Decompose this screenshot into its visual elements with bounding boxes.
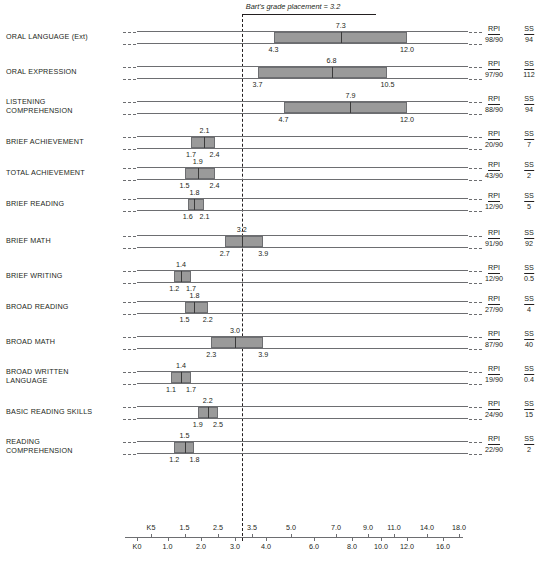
rpi-value-8: 27/90 xyxy=(485,306,503,314)
grade-placement-caption: Bart's grade placement = 3.2 xyxy=(246,2,340,11)
value-high-4: 2.4 xyxy=(210,181,220,190)
row-label-12: READING COMPREHENSION xyxy=(6,437,73,455)
ss-header-3: SS xyxy=(524,130,534,140)
band-dash-left xyxy=(123,271,136,272)
median-marker-5 xyxy=(194,199,195,210)
value-low-11: 1.9 xyxy=(193,420,203,429)
band-dash-right xyxy=(469,199,482,200)
value-high-10: 1.7 xyxy=(186,385,196,394)
ss-header-5: SS xyxy=(524,192,534,202)
rpi-value-11: 24/90 xyxy=(485,411,503,419)
axis-label-lower-4: 4.0 xyxy=(261,542,271,551)
band-dash-left xyxy=(123,248,136,249)
profile-band-5 xyxy=(137,198,468,211)
axis-label-lower-2: 2.0 xyxy=(196,542,206,551)
band-dash-left xyxy=(123,454,136,455)
band-dash-left xyxy=(123,44,136,45)
band-dash-left xyxy=(123,168,136,169)
axis-label-lower-3: 3.0 xyxy=(230,542,240,551)
band-rule-bottom xyxy=(137,282,468,283)
value-mid-12: 1.5 xyxy=(180,431,190,440)
band-rule-top xyxy=(137,336,468,337)
median-marker-1 xyxy=(332,67,333,78)
axis-label-upper-5: 7.0 xyxy=(331,523,341,532)
axis-label-upper-0: K5 xyxy=(147,523,156,532)
ss-value-11: 15 xyxy=(525,411,533,419)
band-dash-left xyxy=(123,407,136,408)
row-label-5: BRIEF READING xyxy=(6,199,64,208)
axis-tick-lower-4 xyxy=(266,537,267,541)
profile-band-8 xyxy=(137,301,468,314)
axis-tick-upper-8 xyxy=(427,534,428,538)
value-high-1: 10.5 xyxy=(381,80,395,89)
axis-label-upper-9: 18.0 xyxy=(452,523,466,532)
band-dash-left xyxy=(123,149,136,150)
axis-label-lower-1: 1.0 xyxy=(163,542,173,551)
band-rule-bottom xyxy=(137,383,468,384)
rpi-header-0: RPI xyxy=(488,25,500,35)
confidence-band-3 xyxy=(191,137,215,149)
value-high-12: 1.8 xyxy=(189,455,199,464)
rpi-value-1: 97/90 xyxy=(485,71,503,79)
band-rule-bottom xyxy=(137,210,468,211)
band-dash-left xyxy=(123,211,136,212)
rpi-header-3: RPI xyxy=(488,130,500,140)
band-dash-left xyxy=(123,114,136,115)
value-low-6: 2.7 xyxy=(220,249,230,258)
value-high-11: 2.5 xyxy=(213,420,223,429)
rpi-header-8: RPI xyxy=(488,295,500,305)
ss-value-6: 92 xyxy=(525,240,533,248)
band-dash-left xyxy=(123,32,136,33)
row-label-9: BROAD MATH xyxy=(6,337,55,346)
ss-header-1: SS xyxy=(524,60,534,70)
value-low-12: 1.2 xyxy=(169,455,179,464)
band-dash-left xyxy=(123,419,136,420)
value-mid-9: 3.0 xyxy=(230,326,240,335)
ss-value-10: 0.4 xyxy=(524,376,534,384)
band-dash-left xyxy=(123,102,136,103)
rpi-value-9: 87/90 xyxy=(485,341,503,349)
axis-label-lower-5: 6.0 xyxy=(309,542,319,551)
band-dash-left xyxy=(123,349,136,350)
value-high-8: 2.2 xyxy=(203,315,213,324)
band-dash-right xyxy=(469,372,482,373)
band-dash-right xyxy=(469,314,482,315)
band-dash-right xyxy=(469,102,482,103)
ss-value-3: 7 xyxy=(527,141,531,149)
axis-tick-upper-0 xyxy=(151,534,152,538)
band-rule-top xyxy=(137,406,468,407)
median-marker-8 xyxy=(194,302,195,313)
row-label-3: BRIEF ACHIEVEMENT xyxy=(6,137,84,146)
band-dash-right xyxy=(469,283,482,284)
row-label-8: BROAD READING xyxy=(6,302,69,311)
ss-header-2: SS xyxy=(524,95,534,105)
ss-value-2: 94 xyxy=(525,106,533,114)
median-marker-6 xyxy=(242,236,243,247)
value-mid-4: 1.9 xyxy=(193,157,203,166)
ss-header-12: SS xyxy=(524,435,534,445)
value-high-9: 3.9 xyxy=(258,350,268,359)
age-grade-profile-chart: Bart's grade placement = 3.2ORAL LANGUAG… xyxy=(0,0,549,562)
profile-band-4 xyxy=(137,167,468,180)
profile-band-2 xyxy=(137,101,468,114)
ss-header-4: SS xyxy=(524,161,534,171)
axis-label-upper-7: 11.0 xyxy=(387,523,400,532)
value-high-2: 12.0 xyxy=(400,115,414,124)
confidence-band-2 xyxy=(284,102,408,114)
band-dash-left xyxy=(123,236,136,237)
axis-tick-lower-7 xyxy=(381,537,382,541)
ss-value-0: 94 xyxy=(525,36,533,44)
rpi-header-5: RPI xyxy=(488,192,500,202)
axis-tick-lower-8 xyxy=(407,537,408,541)
value-low-2: 4.7 xyxy=(279,115,289,124)
profile-band-3 xyxy=(137,136,468,149)
axis-label-upper-3: 3.5 xyxy=(247,523,257,532)
value-low-5: 1.6 xyxy=(183,212,193,221)
ss-value-7: 0.5 xyxy=(524,275,534,283)
value-low-0: 4.3 xyxy=(269,45,279,54)
rpi-header-2: RPI xyxy=(488,95,500,105)
rpi-header-9: RPI xyxy=(488,330,500,340)
band-dash-right xyxy=(469,248,482,249)
band-dash-left xyxy=(123,337,136,338)
band-dash-right xyxy=(469,407,482,408)
